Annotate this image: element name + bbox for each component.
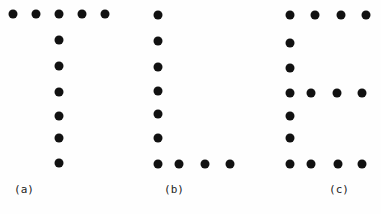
dot <box>307 89 316 98</box>
dot <box>55 159 64 168</box>
dot <box>286 64 295 73</box>
dot <box>362 11 371 20</box>
dot <box>55 10 64 19</box>
dot <box>154 37 163 46</box>
dot <box>154 134 163 143</box>
dot <box>333 89 342 98</box>
dot <box>286 39 295 48</box>
dot <box>286 134 295 143</box>
dot <box>32 10 41 19</box>
dot <box>311 11 320 20</box>
dot <box>286 89 295 98</box>
dot <box>55 134 64 143</box>
dot <box>154 87 163 96</box>
dot <box>55 62 64 71</box>
dot <box>337 11 346 20</box>
dot <box>101 10 110 19</box>
panel-b-label: (b) <box>164 183 184 196</box>
dot <box>55 112 64 121</box>
dot <box>154 11 163 20</box>
dot <box>55 36 64 45</box>
dot <box>154 160 163 169</box>
dot <box>358 160 367 169</box>
dot <box>78 10 87 19</box>
dot <box>175 160 184 169</box>
panel-a-label: (a) <box>14 183 34 196</box>
panel-c-label: (c) <box>329 183 349 196</box>
dot <box>307 160 316 169</box>
dot <box>9 10 18 19</box>
dot <box>226 160 235 169</box>
dot <box>286 11 295 20</box>
dot <box>334 160 343 169</box>
dot <box>201 160 210 169</box>
dot <box>358 89 367 98</box>
dot <box>55 88 64 97</box>
dot <box>286 112 295 121</box>
dot-letter-figure: (a) (b) (c) <box>0 0 381 214</box>
dot <box>286 160 295 169</box>
dot <box>154 110 163 119</box>
dot <box>154 63 163 72</box>
